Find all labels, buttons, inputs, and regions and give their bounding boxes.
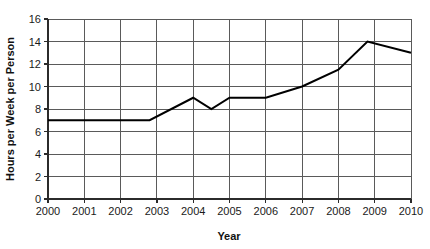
y-tick-label: 12 <box>29 58 41 70</box>
x-axis-title: Year <box>217 230 241 242</box>
line-chart: 0246810121416 20002001200220032004200520… <box>0 0 430 249</box>
x-tick-label: 2010 <box>399 205 423 217</box>
x-tick-label: 2006 <box>254 205 278 217</box>
y-tick-label: 16 <box>29 13 41 25</box>
y-tick-label: 14 <box>29 36 41 48</box>
x-tick-label: 2007 <box>290 205 314 217</box>
y-tick-label: 8 <box>35 103 41 115</box>
y-tick-label: 2 <box>35 171 41 183</box>
x-tick-label: 2008 <box>326 205 350 217</box>
y-tick-label: 0 <box>35 193 41 205</box>
x-tick-label: 2004 <box>181 205 205 217</box>
x-tick-label: 2005 <box>217 205 241 217</box>
y-axis-title: Hours per Week per Person <box>4 37 16 181</box>
x-tick-label: 2003 <box>145 205 169 217</box>
x-tick-label: 2002 <box>108 205 132 217</box>
x-tick-label: 2000 <box>36 205 60 217</box>
x-tick-label: 2009 <box>362 205 386 217</box>
y-tick-label: 4 <box>35 148 41 160</box>
x-tick-label: 2001 <box>72 205 96 217</box>
chart-canvas: 0246810121416 20002001200220032004200520… <box>0 0 430 249</box>
y-tick-label: 10 <box>29 81 41 93</box>
y-tick-label: 6 <box>35 126 41 138</box>
